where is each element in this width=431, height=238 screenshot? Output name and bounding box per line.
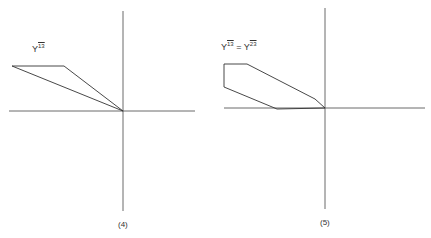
label-y13: Y13 (32, 44, 45, 54)
figure-4 (9, 11, 195, 211)
label-y13-equals-y23: Y13 = Y23 (221, 42, 257, 52)
region-polygon (224, 64, 325, 109)
diagram-canvas (0, 0, 431, 238)
label-superscript: 13 (38, 43, 45, 49)
region-polygon (12, 66, 123, 111)
caption-4: (4) (118, 220, 128, 229)
caption-5: (5) (320, 218, 330, 227)
label-base: Y (244, 42, 250, 52)
label-equals: = (234, 42, 244, 52)
label-superscript: 23 (250, 41, 257, 47)
label-superscript: 13 (227, 41, 234, 47)
figure-5 (224, 8, 425, 209)
